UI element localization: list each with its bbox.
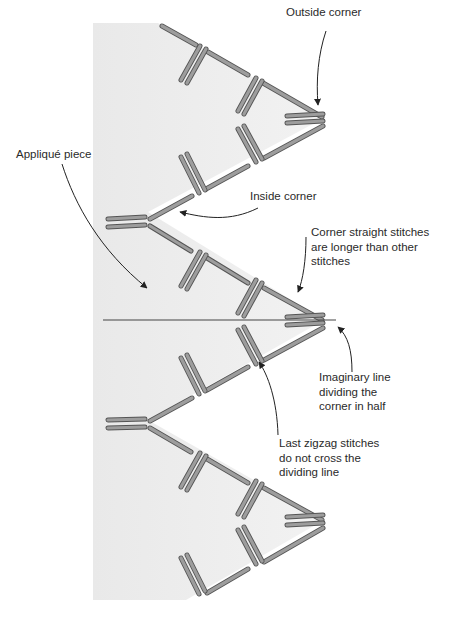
imaginary-line-arrow xyxy=(338,327,352,372)
corner-straight-arrow xyxy=(298,237,306,292)
applique-corner-diagram xyxy=(0,0,451,617)
applique-piece-shape xyxy=(93,23,324,600)
applique-piece-label: Appliqué piece xyxy=(16,147,91,162)
inside-corner-arrow xyxy=(180,208,258,218)
outside-corner-label: Outside corner xyxy=(286,5,361,20)
imaginary-line-label: Imaginary line dividing the corner in ha… xyxy=(319,370,391,414)
corner-straight-stitches-label: Corner straight stitches are longer than… xyxy=(311,225,429,269)
last-zigzag-label: Last zigzag stitches do not cross the di… xyxy=(279,436,379,480)
outside-corner-arrow xyxy=(317,31,326,105)
inside-corner-label: Inside corner xyxy=(250,189,316,204)
last-zigzag-arrow xyxy=(259,362,278,435)
